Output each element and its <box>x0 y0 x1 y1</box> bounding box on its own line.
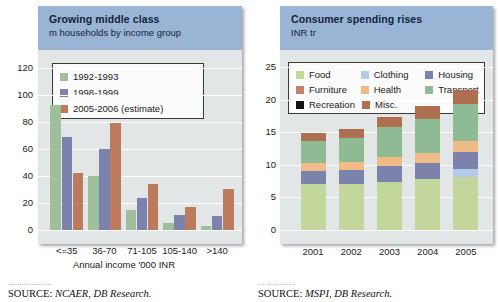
right-chart-plot: Food Clothing Housing <box>280 50 493 244</box>
gridline <box>38 230 242 231</box>
left-source-block: ................... SOURCE: NCAER, DB Re… <box>8 280 151 300</box>
stacked-bar <box>301 133 326 230</box>
right-bar-area <box>280 54 493 230</box>
gridline <box>280 230 493 231</box>
left-source-prefix: SOURCE: <box>8 288 52 299</box>
figure-root: Growing middle class m households by inc… <box>0 0 499 302</box>
stack-segment <box>415 153 440 163</box>
bar <box>137 198 148 230</box>
bar <box>174 215 185 230</box>
stacked-bar <box>339 129 364 230</box>
bar <box>163 223 174 230</box>
stack-segment <box>377 182 402 230</box>
stack-segment <box>377 117 402 127</box>
stack-segment <box>339 138 364 161</box>
stack-segment <box>301 163 326 171</box>
left-chart-card: Growing middle class m households by inc… <box>38 6 242 244</box>
stack-segment <box>377 157 402 166</box>
stack-segment <box>453 141 478 151</box>
stack-segment <box>339 184 364 230</box>
stack-segment <box>453 169 478 176</box>
stack-segment <box>415 179 440 230</box>
right-chart-header: Consumer spending rises INR tr <box>280 6 493 50</box>
stack-segment <box>453 152 478 170</box>
bar <box>110 123 121 230</box>
left-chart-header: Growing middle class m households by inc… <box>38 6 242 50</box>
y-tick-label: 15 <box>254 127 276 136</box>
bar <box>185 207 196 230</box>
stack-segment <box>339 170 364 184</box>
y-tick-label: 120 <box>4 63 33 72</box>
left-chart-subtitle: m households by income group <box>49 26 242 39</box>
x-tick-label: 2005 <box>442 247 490 257</box>
y-tick-label: 0 <box>254 225 276 234</box>
bar <box>99 149 110 230</box>
bar <box>201 226 212 230</box>
left-chart-title: Growing middle class <box>49 13 242 25</box>
bar <box>126 210 137 230</box>
bar-group <box>50 54 83 230</box>
bar <box>62 137 73 230</box>
stack-segment <box>301 184 326 230</box>
stacked-bar <box>377 117 402 230</box>
stack-segment <box>301 141 326 163</box>
bar <box>148 184 159 230</box>
bar <box>88 176 99 230</box>
bar-group <box>201 54 234 230</box>
stack-segment <box>339 129 364 138</box>
left-source-line: SOURCE: NCAER, DB Research. <box>8 288 151 300</box>
y-tick-label: 20 <box>4 198 33 207</box>
bar <box>223 189 234 230</box>
y-tick-label: 25 <box>254 62 276 71</box>
stack-segment <box>377 166 402 182</box>
y-tick-label: 60 <box>4 144 33 153</box>
right-source-prefix: SOURCE: <box>258 288 302 299</box>
right-source-line: SOURCE: MSPI, DB Research. <box>258 288 392 300</box>
y-tick-label: 20 <box>254 95 276 104</box>
right-source-block: ................ SOURCE: MSPI, DB Resear… <box>258 280 392 300</box>
right-chart-panel: Consumer spending rises INR tr Food Clot… <box>254 6 495 261</box>
stack-segment <box>415 163 440 179</box>
bar-group <box>88 54 121 230</box>
bar <box>50 105 61 230</box>
y-tick-label: 40 <box>4 171 33 180</box>
right-chart-subtitle: INR tr <box>291 26 493 39</box>
left-chart-plot: 1992-1993 1998-1999 2005-2006 (estimate) <box>38 50 242 244</box>
left-bar-area <box>38 54 242 230</box>
bar <box>212 216 223 230</box>
y-tick-label: 10 <box>254 160 276 169</box>
stack-segment <box>339 162 364 170</box>
y-tick-label: 80 <box>4 117 33 126</box>
y-tick-label: 100 <box>4 90 33 99</box>
left-source-rule: ................... <box>8 280 151 287</box>
stack-segment <box>301 133 326 141</box>
left-source-text: NCAER, DB Research. <box>55 288 151 299</box>
stack-segment <box>415 106 440 118</box>
left-chart-panel: Growing middle class m households by inc… <box>4 6 244 261</box>
stack-segment <box>377 127 402 157</box>
stacked-bar <box>415 106 440 230</box>
stacked-bar <box>453 90 478 230</box>
bar-group <box>163 54 196 230</box>
y-tick-label: 0 <box>4 225 33 234</box>
right-chart-title: Consumer spending rises <box>291 13 493 25</box>
stack-segment <box>415 119 440 154</box>
stack-segment <box>301 171 326 185</box>
stack-segment <box>453 90 478 104</box>
right-source-text: MSPI, DB Research. <box>305 288 392 299</box>
bar <box>73 173 84 230</box>
right-chart-card: Consumer spending rises INR tr Food Clot… <box>280 6 493 244</box>
x-tick-label: >140 <box>191 246 243 256</box>
stack-segment <box>453 177 478 230</box>
bar-group <box>126 54 159 230</box>
y-tick-label: 5 <box>254 192 276 201</box>
right-source-rule: ................ <box>258 280 392 287</box>
left-x-axis-title: Annual income '000 INR <box>4 259 244 270</box>
stack-segment <box>453 104 478 141</box>
